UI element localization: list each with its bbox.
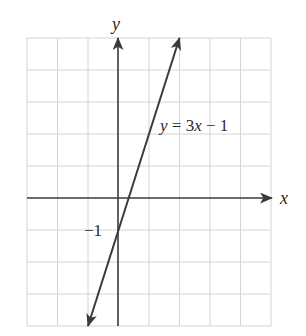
equation-label: y = 3x − 1 (158, 116, 228, 135)
equation-y: y (158, 116, 168, 135)
x-axis-label: x (279, 188, 288, 208)
line-y-equals-3x-minus-1 (88, 38, 180, 326)
equation-middle: = 3 (168, 116, 195, 135)
coordinate-plane-figure: x y −1 y = 3x − 1 (0, 0, 306, 336)
y-intercept-label: −1 (84, 221, 102, 240)
y-axis-label: y (110, 14, 120, 34)
grid (27, 38, 271, 326)
equation-tail: − 1 (202, 116, 229, 135)
